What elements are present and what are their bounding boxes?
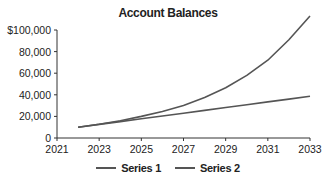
y-tick-label: $100,000 xyxy=(7,24,51,36)
line-chart: 020,00040,00060,00080,000$100,0002021202… xyxy=(0,0,336,189)
x-tick-label: 2033 xyxy=(298,143,322,155)
x-tick-label: 2031 xyxy=(256,143,280,155)
y-tick-label: 60,000 xyxy=(19,67,51,79)
x-tick-label: 2021 xyxy=(45,143,69,155)
legend: Series 1 Series 2 xyxy=(0,162,336,174)
legend-item-series-1: Series 1 xyxy=(96,162,161,174)
legend-item-series-2: Series 2 xyxy=(175,162,240,174)
legend-swatch-icon xyxy=(96,167,116,169)
legend-label: Series 2 xyxy=(200,162,240,174)
series-line-1 xyxy=(78,16,310,127)
y-tick-label: 80,000 xyxy=(19,46,51,58)
x-tick-label: 2027 xyxy=(172,143,196,155)
y-tick-label: 20,000 xyxy=(19,110,51,122)
legend-label: Series 1 xyxy=(121,162,161,174)
legend-swatch-icon xyxy=(175,167,195,169)
y-tick-label: 40,000 xyxy=(19,89,51,101)
x-tick-label: 2025 xyxy=(130,143,154,155)
x-tick-label: 2023 xyxy=(87,143,111,155)
x-tick-label: 2029 xyxy=(214,143,238,155)
